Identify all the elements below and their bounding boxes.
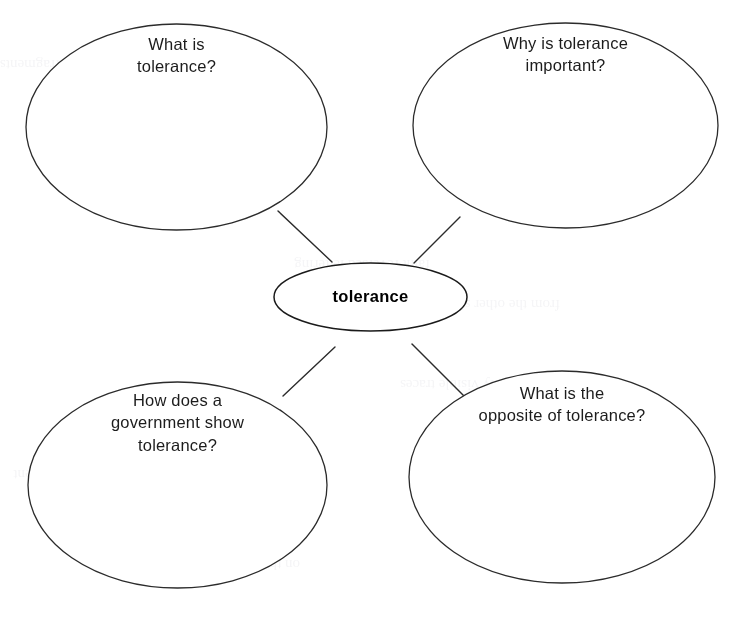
concept-web-organizer: fragments of reversed page show through … (0, 0, 740, 620)
ellipse-topleft[interactable] (26, 24, 327, 230)
connector-topleft (278, 211, 332, 262)
ellipse-bottomright[interactable] (409, 371, 715, 583)
connector-bottomleft (283, 347, 335, 396)
concept-web-diagram: fragments of reversed page show through … (0, 0, 740, 620)
ellipse-bottomleft[interactable] (28, 382, 327, 588)
connector-topright (414, 217, 460, 263)
ellipse-topright[interactable] (413, 23, 718, 228)
ellipse-center[interactable] (274, 263, 467, 331)
